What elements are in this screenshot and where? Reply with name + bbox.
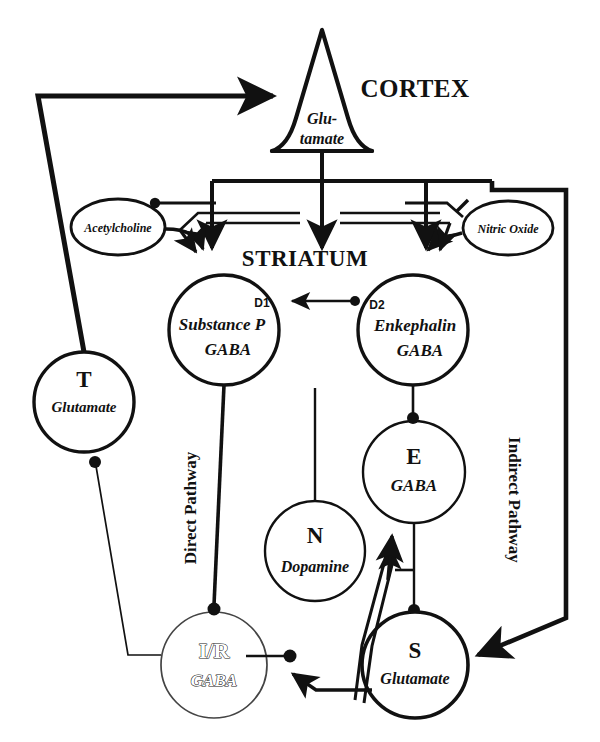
indirect-pathway-label: Indirect Pathway (505, 437, 524, 563)
conn-striatum-to-nitric-oxide (405, 200, 468, 217)
circuit-diagram: Glu- tamate CORTEX Acetylcholine Nitric … (0, 0, 600, 742)
enkephalin-receptor-label: D2 (369, 298, 385, 312)
external-pallidum-letter: E (406, 444, 421, 469)
cortex-region-label: CORTEX (360, 75, 469, 102)
internal-pallidum-letter: I/R (199, 638, 231, 663)
cortex-neuron-label-1: Glu- (307, 110, 337, 127)
thalamus-letter: T (76, 367, 91, 392)
subthalamic-label: Glutamate (380, 670, 449, 687)
nitric-oxide-label: Nitric Oxide (477, 222, 540, 236)
conn-enkephalin-to-substance-p (292, 296, 360, 306)
conn-substance-p-to-internal-pallidum (208, 385, 225, 616)
node-substance-p: D1 Substance P GABA (169, 275, 279, 385)
conn-internal-pallidum-to-thalamus (89, 456, 161, 655)
enkephalin-label-1: Enkephalin (373, 316, 456, 335)
cortex-neuron-label-2: tamate (300, 130, 344, 147)
conn-enkephalin-to-external-pallidum (407, 385, 419, 424)
substance-p-label-1: Substance P (179, 315, 266, 334)
node-thalamus: T Glutamate (34, 352, 134, 452)
substance-p-receptor-label: D1 (254, 296, 270, 310)
node-external-pallidum: E GABA (363, 421, 465, 523)
nigra-letter: N (307, 523, 324, 548)
conn-striatum-to-acetylcholine (150, 198, 216, 208)
external-pallidum-label: GABA (391, 476, 437, 495)
direct-pathway-label: Direct Pathway (181, 451, 200, 564)
cortex-output-trunk (212, 151, 492, 181)
subthalamic-letter: S (409, 638, 422, 663)
conn-external-pallidum-to-subthalamic (395, 523, 420, 616)
striatum-collateral-lines-right (340, 213, 450, 223)
conn-acetylcholine-to-substance-p (166, 229, 203, 249)
acetylcholine-label: Acetylcholine (83, 221, 152, 235)
node-acetylcholine: Acetylcholine (71, 199, 165, 255)
enkephalin-label-2: GABA (397, 341, 443, 360)
node-enkephalin: D2 Enkephalin GABA (358, 275, 468, 385)
nigra-label: Dopamine (280, 558, 349, 576)
thalamus-label: Glutamate (51, 399, 116, 415)
striatum-collateral-lines-left (180, 213, 300, 230)
internal-pallidum-label: GABA (191, 671, 237, 690)
cortex-neuron: Glu- tamate (272, 30, 372, 151)
substance-p-label-2: GABA (205, 340, 251, 359)
diagram-canvas: Glu- tamate CORTEX Acetylcholine Nitric … (0, 0, 600, 742)
node-nigra-compacta: N Dopamine (265, 501, 365, 601)
node-nitric-oxide: Nitric Oxide (463, 201, 553, 255)
node-internal-pallidum-reticulata: I/R GABA (161, 612, 267, 718)
striatum-region-label: STRIATUM (242, 246, 368, 271)
